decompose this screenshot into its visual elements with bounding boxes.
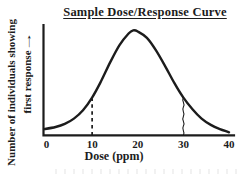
scan-artifact [55,169,244,174]
wavy-marker-line-30ppm [183,98,184,136]
x-tick-label-30: 30 [178,138,189,150]
x-tick-label-0: 0 [44,138,50,150]
dose-response-figure: Sample Dose/Response Curve Number of ind… [0,0,244,174]
plot-area [0,0,244,174]
dose-response-curve [44,30,229,132]
x-tick-label-40: 40 [224,138,235,150]
x-axis-label: Dose (ppm) [85,149,144,164]
